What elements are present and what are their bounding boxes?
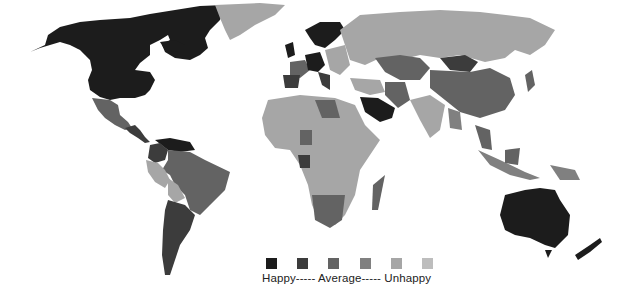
region-south-america xyxy=(146,138,230,275)
legend-swatch-level-2 xyxy=(297,258,308,269)
region-greenland xyxy=(215,3,285,40)
region-africa xyxy=(262,95,385,228)
legend-swatch-level-1 xyxy=(266,258,277,269)
region-oceania xyxy=(500,188,602,260)
legend-swatch-level-6 xyxy=(422,258,433,269)
legend-swatch-level-4 xyxy=(360,258,371,269)
region-russia xyxy=(340,10,555,65)
region-north-america xyxy=(30,5,225,143)
region-asia xyxy=(350,55,535,138)
region-southeast-asia xyxy=(475,125,580,180)
region-europe xyxy=(283,22,350,90)
legend-swatch-level-3 xyxy=(328,258,339,269)
legend-swatch-level-5 xyxy=(391,258,402,269)
map-legend: Happy----- Average----- Unhappy xyxy=(262,258,462,288)
world-map xyxy=(0,0,617,289)
legend-label: Happy----- Average----- Unhappy xyxy=(262,272,431,284)
